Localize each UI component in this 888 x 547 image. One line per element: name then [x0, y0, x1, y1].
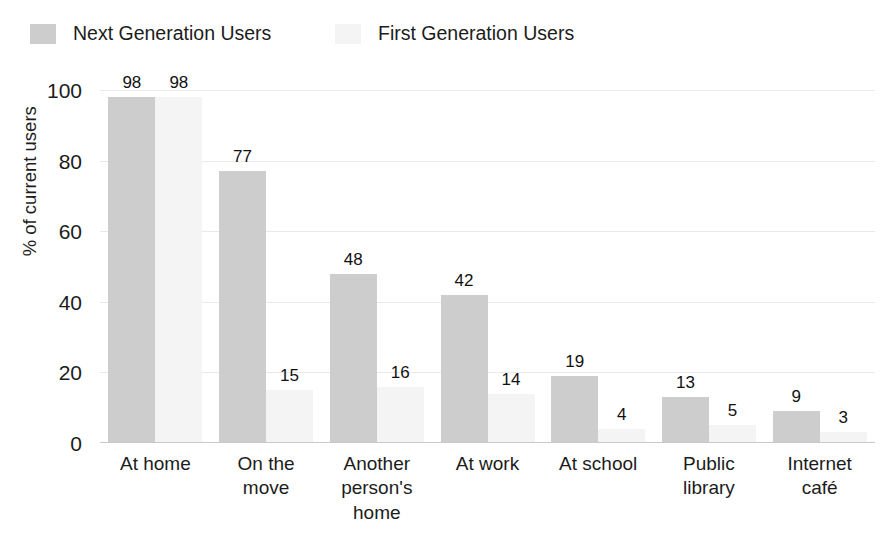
x-axis-label: At school: [543, 452, 654, 476]
bar: [441, 295, 488, 443]
x-axis-label-line: café: [764, 476, 875, 500]
bar: [108, 97, 155, 443]
bar: [488, 394, 535, 443]
gridline: [100, 90, 875, 91]
legend-label-next-generation-users: Next Generation Users: [73, 24, 271, 44]
bar-value-label: 9: [791, 388, 800, 405]
x-axis-label-line: At school: [543, 452, 654, 476]
x-axis-label-line: person's: [321, 476, 432, 500]
bar-value-label: 16: [391, 364, 410, 381]
bar-value-label: 98: [169, 74, 188, 91]
legend-swatch-next-generation-users: [30, 24, 56, 44]
gridline: [100, 302, 875, 303]
legend-label-first-generation-users: First Generation Users: [378, 24, 574, 44]
bar-value-label: 48: [344, 251, 363, 268]
bar: [598, 429, 645, 443]
y-tick-label: 60: [59, 221, 82, 242]
legend-swatch-first-generation-users: [335, 24, 361, 44]
bar: [709, 425, 756, 443]
x-axis-label-line: On the: [211, 452, 322, 476]
bar: [773, 411, 820, 443]
x-axis-label-line: move: [211, 476, 322, 500]
bar-value-label: 77: [233, 148, 252, 165]
x-axis-label: On themove: [211, 452, 322, 501]
bar: [377, 387, 424, 443]
plot-area: 989877154816421419413593: [100, 90, 875, 443]
bar-value-label: 15: [280, 367, 299, 384]
bar-value-label: 42: [455, 272, 474, 289]
gridline: [100, 231, 875, 232]
x-axis-label-line: Another: [321, 452, 432, 476]
x-axis-label: At work: [432, 452, 543, 476]
bar: [330, 274, 377, 443]
y-tick-label: 0: [70, 433, 82, 454]
x-axis-label: Publiclibrary: [654, 452, 765, 501]
y-tick-label: 20: [59, 362, 82, 383]
gridline: [100, 161, 875, 162]
bar-value-label: 5: [728, 402, 737, 419]
x-axis-label: Internetcafé: [764, 452, 875, 501]
y-tick-label: 100: [47, 80, 82, 101]
bar-value-label: 13: [676, 374, 695, 391]
bar-value-label: 14: [502, 371, 521, 388]
bar: [155, 97, 202, 443]
gridline: [100, 372, 875, 373]
x-axis-label-line: Internet: [764, 452, 875, 476]
x-axis-label: Anotherperson'shome: [321, 452, 432, 525]
x-axis-label-line: library: [654, 476, 765, 500]
bar: [219, 171, 266, 443]
x-axis-label-line: Public: [654, 452, 765, 476]
legend-item-first-generation-users: First Generation Users: [335, 16, 574, 52]
bar-value-label: 4: [617, 406, 626, 423]
y-tick-label: 40: [59, 291, 82, 312]
bar-value-label: 19: [565, 353, 584, 370]
legend-item-next-generation-users: Next Generation Users: [30, 16, 271, 52]
bar: [551, 376, 598, 443]
x-axis-label: At home: [100, 452, 211, 476]
x-axis-labels: At homeOn themoveAnotherperson'shomeAt w…: [100, 452, 875, 547]
x-axis-label-line: home: [321, 501, 432, 525]
y-axis-title: % of current users: [21, 56, 40, 306]
y-tick-label: 80: [59, 150, 82, 171]
x-axis-label-line: At home: [100, 452, 211, 476]
x-axis-line: [100, 442, 875, 443]
bar-value-label: 3: [838, 409, 847, 426]
bar: [662, 397, 709, 443]
y-axis-ticks: 020406080100: [0, 90, 90, 443]
chart-legend: Next Generation Users First Generation U…: [0, 16, 888, 52]
bar-value-label: 98: [122, 74, 141, 91]
x-axis-label-line: At work: [432, 452, 543, 476]
bar: [266, 390, 313, 443]
